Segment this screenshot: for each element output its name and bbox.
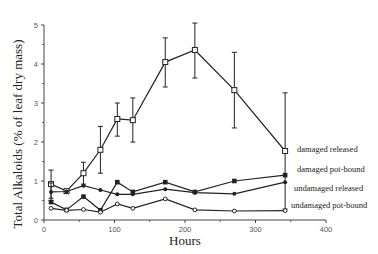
filled-diamond-marker xyxy=(232,192,236,196)
open-diamond-marker xyxy=(232,209,236,213)
filled-diamond-marker xyxy=(283,180,287,184)
filled-square-marker xyxy=(115,180,120,185)
y-tick-label: 4 xyxy=(34,60,38,69)
filled-diamond-marker xyxy=(163,187,167,191)
open-diamond-marker xyxy=(131,206,135,210)
filled-diamond-marker xyxy=(131,192,135,196)
open-diamond-marker xyxy=(193,208,197,212)
filled-square-marker xyxy=(283,173,288,178)
legend: damaged releaseddamaged pot-boundundamag… xyxy=(291,144,368,210)
filled-diamond-marker xyxy=(49,190,53,194)
alkaloid-line-chart: 0123450100200300400 damaged releaseddama… xyxy=(0,0,378,254)
legend-label: damaged pot-bound xyxy=(297,164,365,174)
open-diamond-marker xyxy=(99,210,103,214)
filled-diamond-marker xyxy=(65,190,69,194)
open-square-marker xyxy=(192,47,197,52)
open-square-marker xyxy=(130,118,135,123)
y-tick-label: 3 xyxy=(34,99,38,108)
open-square-marker xyxy=(283,148,288,153)
open-square-marker xyxy=(232,88,237,93)
filled-diamond-marker xyxy=(98,188,102,192)
open-diamond-marker xyxy=(115,202,119,206)
y-tick-label: 1 xyxy=(34,177,38,186)
x-tick-label: 400 xyxy=(320,225,333,234)
open-diamond-marker xyxy=(283,209,287,213)
open-diamond-marker xyxy=(82,208,86,212)
open-square-marker xyxy=(115,116,120,121)
series-damaged-released xyxy=(49,23,288,209)
x-tick-label: 300 xyxy=(249,225,262,234)
filled-diamond-marker xyxy=(81,184,85,188)
legend-label: damaged released xyxy=(297,144,358,154)
y-axis-title: Total Alkaloids (% of leaf dry mass) xyxy=(10,40,25,229)
filled-square-marker xyxy=(81,194,86,199)
open-diamond-marker xyxy=(49,206,53,210)
y-tick-label: 0 xyxy=(34,216,38,225)
series-damaged-pot-bound xyxy=(49,173,288,213)
series-line xyxy=(51,182,285,194)
open-square-marker xyxy=(81,171,86,176)
x-tick-label: 100 xyxy=(108,225,121,234)
legend-label: undamaged released xyxy=(294,183,364,193)
series-line xyxy=(51,50,285,191)
open-square-marker xyxy=(163,60,168,65)
open-diamond-marker xyxy=(163,197,167,201)
series-line xyxy=(51,175,285,210)
filled-square-marker xyxy=(163,180,168,185)
series-line xyxy=(51,199,285,212)
filled-diamond-marker xyxy=(115,192,119,196)
open-diamond-marker xyxy=(65,208,69,212)
y-tick-label: 2 xyxy=(34,138,38,147)
series-layer xyxy=(49,23,288,214)
axes: 0123450100200300400 xyxy=(34,21,332,235)
x-axis-title: Hours xyxy=(169,233,201,248)
x-tick-label: 0 xyxy=(42,225,46,234)
open-square-marker xyxy=(98,147,103,152)
legend-label: undamaged pot-bound xyxy=(291,200,368,210)
series-undamaged-pot-bound xyxy=(49,197,287,214)
filled-diamond-marker xyxy=(193,191,197,195)
filled-square-marker xyxy=(232,179,237,184)
y-tick-label: 5 xyxy=(34,21,38,30)
